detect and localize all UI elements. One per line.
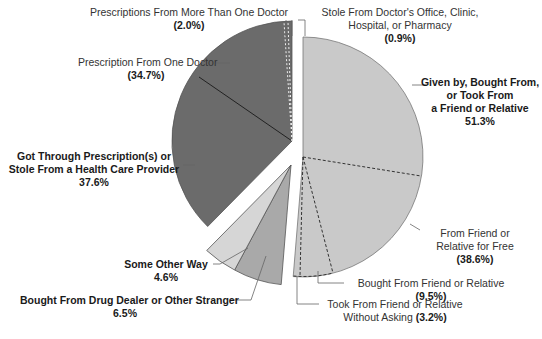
label-took: Took From Friend or Relative Without Ask… (320, 298, 470, 324)
label-multi-doctor: Prescriptions From More Than One Doctor … (74, 6, 304, 32)
label-prescription: Got Through Prescription(s) or Stole Fro… (4, 150, 184, 189)
label-friend-relative: Given by, Bought From, or Took From a Fr… (420, 76, 540, 128)
slice-friend-relative (293, 37, 423, 277)
label-stole: Stole From Doctor's Office, Clinic, Hosp… (310, 6, 490, 45)
label-free: From Friend or Relative for Free (38.6%) (420, 227, 530, 266)
label-one-doctor: Prescription From One Doctor (34.7%) (78, 56, 214, 82)
label-drug-dealer: Bought From Drug Dealer or Other Strange… (20, 294, 230, 320)
label-some-other-way: Some Other Way 4.6% (120, 258, 212, 284)
